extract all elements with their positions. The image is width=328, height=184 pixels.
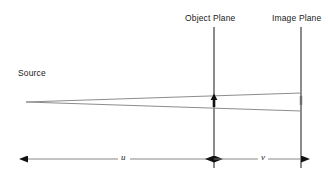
- diagram-canvas: [0, 0, 328, 184]
- object-distance-label: u: [118, 152, 129, 162]
- object-plane-label: Object Plane: [185, 13, 235, 23]
- image-plane-label: Image Plane: [272, 13, 321, 23]
- upper-ray-line: [26, 93, 301, 102]
- optics-ray-diagram: Object Plane Image Plane Source u v: [0, 0, 328, 184]
- image-distance-label: v: [258, 152, 268, 162]
- lower-ray-line: [26, 102, 301, 111]
- source-label: Source: [18, 68, 46, 78]
